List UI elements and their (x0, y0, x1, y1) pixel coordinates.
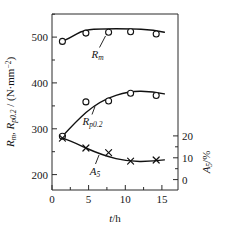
series-a5-curve (62, 138, 164, 161)
data-point-rp02-4 (128, 90, 134, 96)
data-point-a5-3 (106, 150, 112, 156)
left-axis-tick-labels: 500 400 300 200 (32, 31, 49, 181)
x-axis-title-unit: /h (112, 212, 121, 224)
data-point-rm-1 (59, 38, 65, 44)
data-point-rp02-2 (83, 99, 89, 105)
series-rm-label: Rm (90, 48, 104, 62)
left-tick-label-400: 400 (32, 77, 49, 89)
data-point-rp02-5 (153, 93, 159, 99)
data-point-rm-2 (83, 30, 89, 36)
x-axis-title: t/h (109, 212, 121, 224)
svg-text:Rm, Rp0.2 / (N·mm−2): Rm, Rp0.2 / (N·mm−2) (4, 57, 18, 148)
series-rp02: Rp0.2 (59, 90, 164, 139)
data-point-rm-4 (128, 29, 134, 35)
x-tick-label-5: 5 (86, 193, 92, 205)
x-axis-ticks (52, 185, 162, 190)
right-axis-title-unit: /% (200, 151, 212, 163)
data-point-a5-2 (83, 145, 89, 151)
svg-text:A5/%: A5/% (200, 151, 214, 175)
right-tick-label-0: 0 (182, 174, 188, 186)
chart-figure: 500 400 300 200 20 10 0 (0, 0, 227, 236)
plot-frame (52, 14, 178, 190)
left-axis-ticks (52, 14, 57, 174)
left-axis-title: Rm, Rp0.2 / (N·mm−2) (4, 57, 18, 148)
left-axis-title-unit-open: / (N·mm (4, 68, 17, 109)
series-rp02-label: Rp0.2 (82, 115, 103, 129)
series-rp02-curve (62, 91, 164, 136)
right-axis-tick-labels: 20 10 0 (182, 130, 194, 186)
left-tick-label-300: 300 (32, 123, 49, 135)
right-axis-ticks (173, 136, 178, 180)
svg-text:t/h: t/h (109, 212, 121, 224)
left-axis-title-unit-sup: −2 (4, 60, 13, 68)
right-axis-title: A5/% (200, 151, 214, 175)
series-a5-label: A5 (89, 165, 101, 179)
series-a5: A5 (59, 135, 164, 178)
right-tick-label-20: 20 (182, 130, 194, 142)
x-axis-tick-labels: 0 5 10 15 (49, 193, 168, 205)
right-tick-label-10: 10 (182, 152, 194, 164)
chart-canvas: 500 400 300 200 20 10 0 (0, 0, 227, 236)
left-axis-title-sub2: p0.2 (9, 109, 18, 123)
series-rm-curve (62, 29, 164, 42)
data-point-rm-5 (153, 31, 159, 37)
data-point-rp02-3 (106, 98, 112, 104)
x-tick-label-10: 10 (120, 193, 132, 205)
x-tick-label-0: 0 (49, 193, 55, 205)
left-axis-title-unit-close: ) (4, 57, 17, 61)
left-tick-label-500: 500 (32, 31, 49, 43)
series-rm: Rm (59, 29, 164, 62)
x-tick-label-15: 15 (156, 193, 168, 205)
left-tick-label-200: 200 (32, 169, 49, 181)
data-point-rm-3 (106, 29, 112, 35)
